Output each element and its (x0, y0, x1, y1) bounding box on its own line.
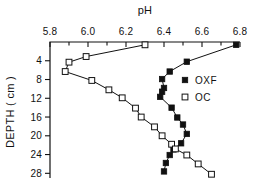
legend-marker-oc (182, 94, 188, 100)
legend: OXFOC (182, 75, 217, 103)
data-point-oc (173, 146, 179, 152)
legend-label-oxf: OXF (195, 75, 217, 86)
x-tick-label: 6.8 (233, 26, 248, 37)
x-tick-label: 5.8 (43, 26, 58, 37)
data-point-oxf (167, 152, 172, 157)
y-tick-label: 8 (36, 74, 42, 85)
data-point-oc (159, 133, 165, 139)
data-point-oc (195, 161, 201, 167)
data-point-oc (62, 69, 68, 75)
y-axis-title: DEPTH ( cm ) (4, 76, 16, 148)
legend-label-oc: OC (195, 92, 211, 103)
data-point-oxf (184, 59, 189, 64)
y-axis-ticks (45, 61, 50, 174)
data-point-oc (133, 105, 139, 111)
data-point-oxf (158, 94, 163, 99)
data-point-oc (106, 87, 112, 93)
data-point-oc (66, 59, 72, 65)
data-point-oc (184, 152, 190, 158)
data-point-oxf (159, 89, 164, 94)
data-point-oc (138, 114, 144, 120)
data-point-oc (119, 95, 125, 101)
axis-spine (50, 42, 240, 178)
data-point-oxf (163, 160, 168, 165)
data-point-oxf (167, 69, 172, 74)
data-point-oxf (234, 42, 239, 47)
x-tick-label: 6.0 (81, 26, 96, 37)
data-point-oxf (175, 115, 180, 120)
axes (50, 42, 240, 178)
data-point-oc (152, 124, 158, 130)
data-point-oxf (184, 131, 189, 136)
x-tick-label: 6.2 (119, 26, 134, 37)
ph-depth-profile-figure: 5.86.06.26.46.66.8 481216202428 pH DEPTH… (0, 0, 254, 187)
legend-marker-oxf (182, 77, 187, 82)
y-tick-label: 24 (30, 149, 42, 160)
data-point-oxf (161, 169, 166, 174)
series-oc (62, 42, 214, 177)
y-tick-label: 16 (30, 112, 42, 123)
y-axis-tick-labels: 481216202428 (30, 55, 42, 179)
x-tick-label: 6.4 (157, 26, 172, 37)
y-tick-label: 12 (30, 93, 42, 104)
data-point-oc (209, 171, 215, 177)
data-point-oc (142, 42, 148, 48)
data-point-oxf (169, 105, 174, 110)
y-tick-label: 4 (36, 55, 42, 66)
y-tick-label: 28 (30, 168, 42, 179)
series-oxf (158, 42, 239, 174)
x-tick-label: 6.6 (195, 26, 210, 37)
x-axis-tick-labels: 5.86.06.26.46.66.8 (43, 26, 248, 37)
data-point-oxf (178, 141, 183, 146)
data-point-oxf (180, 122, 185, 127)
x-axis-title: pH (138, 4, 153, 16)
y-tick-label: 20 (30, 130, 42, 141)
data-point-oc (83, 54, 89, 60)
data-point-oc (89, 78, 95, 84)
data-series (62, 42, 239, 177)
chart-canvas: 5.86.06.26.46.66.8 481216202428 pH DEPTH… (0, 0, 254, 187)
data-point-oxf (159, 76, 164, 81)
